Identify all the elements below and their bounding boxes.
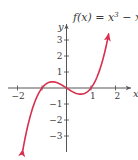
function-label-main: f(x) = x (72, 11, 115, 24)
y-tick-label: −2 (49, 115, 62, 125)
x-tick-label: −2 (12, 91, 25, 101)
y-tick-label: 2 (57, 51, 63, 61)
y-tick-label: 3 (57, 35, 63, 45)
y-tick-label: 1 (57, 67, 63, 77)
function-plot: −212 −3−2−1123 x y f(x) = x3 − x (0, 0, 138, 160)
x-tick-label: 1 (90, 91, 96, 101)
x-axis-label: x (133, 88, 138, 99)
function-label: f(x) = x3 − x (72, 11, 138, 24)
function-label-tail: − x (119, 11, 138, 24)
y-tick-label: −1 (49, 99, 62, 109)
y-tick-label: −3 (49, 131, 63, 141)
cubic-curve (23, 34, 109, 150)
x-tick-label: 2 (115, 91, 121, 101)
y-axis-label: y (57, 21, 64, 32)
